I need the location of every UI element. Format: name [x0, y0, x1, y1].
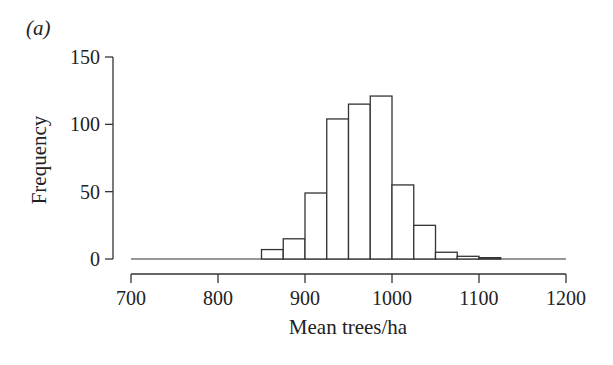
- histogram-bar: [414, 225, 436, 259]
- x-tick-label: 1200: [546, 287, 586, 309]
- x-tick-label: 1000: [372, 287, 412, 309]
- y-tick-label: 100: [70, 113, 100, 135]
- x-axis-label: Mean trees/ha: [289, 315, 408, 339]
- x-tick-label: 900: [290, 287, 320, 309]
- y-axis-label: Frequency: [27, 115, 51, 204]
- histogram-bar: [262, 250, 284, 259]
- x-tick-label: 1100: [459, 287, 498, 309]
- histogram-chart: 050100150 700800900100011001200 Frequenc…: [0, 0, 613, 365]
- histogram-bar: [283, 239, 305, 259]
- histogram-bar: [479, 258, 501, 259]
- histogram-bars: [131, 96, 566, 259]
- x-tick-label: 800: [203, 287, 233, 309]
- y-tick-label: 50: [80, 181, 100, 203]
- y-tick-label: 0: [90, 248, 100, 270]
- y-tick-label: 150: [70, 46, 100, 68]
- x-tick-label: 700: [116, 287, 146, 309]
- histogram-bar: [457, 256, 479, 259]
- histogram-bar: [349, 104, 371, 259]
- y-axis: 050100150: [70, 46, 113, 270]
- histogram-bar: [436, 252, 458, 259]
- histogram-bar: [327, 119, 349, 259]
- histogram-bar: [392, 185, 414, 259]
- histogram-bar: [305, 193, 327, 259]
- histogram-bar: [370, 96, 392, 259]
- x-axis: 700800900100011001200: [116, 274, 586, 309]
